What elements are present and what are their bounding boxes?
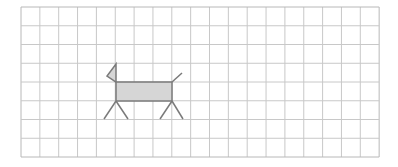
dog-tail [172,73,182,82]
dog-legs [104,101,183,119]
dog-leg [172,101,183,119]
dog-head-flag [107,64,116,82]
square-grid [21,7,379,157]
dog-leg [160,101,172,119]
dog-body-rectangle [116,82,172,101]
dog-figure [104,64,183,119]
grid-diagram [0,0,398,167]
dog-leg [116,101,128,119]
dog-leg [104,101,116,119]
